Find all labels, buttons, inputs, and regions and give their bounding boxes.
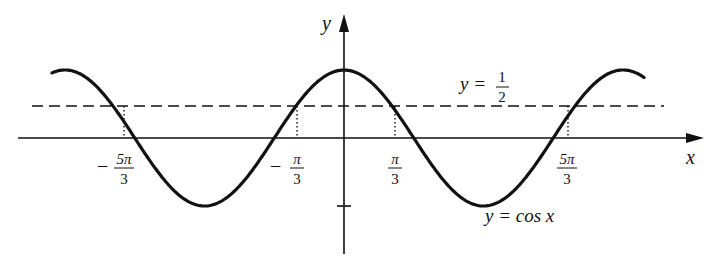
svg-text:3: 3 bbox=[120, 171, 128, 187]
tick-label-neg-pi-3: − π 3 bbox=[270, 151, 304, 187]
svg-text:−: − bbox=[270, 155, 281, 177]
tick-label-5pi-3: 5π 3 bbox=[557, 151, 577, 187]
svg-text:5π: 5π bbox=[559, 151, 575, 167]
cosine-chart: y x y = 1 2 y = cos x − 5π 3 − π 3 π 3 5… bbox=[0, 0, 726, 273]
tick-label-neg-5pi-3: − 5π 3 bbox=[97, 151, 134, 187]
half-den: 2 bbox=[498, 89, 506, 105]
svg-text:3: 3 bbox=[563, 171, 571, 187]
svg-text:3: 3 bbox=[391, 171, 399, 187]
svg-text:π: π bbox=[391, 151, 399, 167]
svg-text:−: − bbox=[97, 155, 108, 177]
intersection-drops bbox=[124, 106, 568, 138]
half-line-label: y = bbox=[458, 73, 486, 94]
x-axis-arrow-icon bbox=[686, 133, 704, 143]
curve-label: y = cos x bbox=[483, 205, 555, 226]
y-axis-label: y bbox=[320, 12, 331, 35]
svg-text:π: π bbox=[293, 151, 301, 167]
svg-text:5π: 5π bbox=[116, 151, 132, 167]
svg-text:3: 3 bbox=[293, 171, 301, 187]
x-axis-label: x bbox=[685, 146, 695, 168]
y-axis-arrow-icon bbox=[339, 14, 349, 32]
tick-label-pi-3: π 3 bbox=[388, 151, 402, 187]
half-num: 1 bbox=[498, 69, 506, 85]
